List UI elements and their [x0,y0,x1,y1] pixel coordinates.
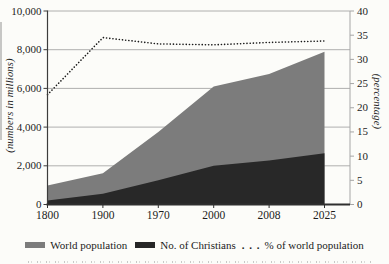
x-axis-tick-label: 2008 [258,209,281,221]
x-axis-tick-label: 1900 [91,209,114,221]
plot-area: 02,0004,0006,0008,00010,0000510152025303… [0,0,389,236]
x-axis-tick-label: 1970 [147,209,170,221]
dotted-line-swatch: . . . [242,239,261,251]
left-axis-title: (numbers in millions) [4,41,15,171]
right-axis-title: (percentage) [372,62,383,142]
x-axis-tick-label: 2000 [202,209,225,221]
left-axis-tick-label: 8,000 [17,43,42,55]
christians-swatch [135,242,155,248]
legend: World population No. of Christians . . .… [0,239,389,251]
right-axis-tick-label: 0 [357,198,363,210]
scan-edge-artifact [0,22,2,140]
right-axis-tick-label: 10 [357,150,369,162]
x-axis-tick-label: 2025 [313,209,336,221]
left-axis-tick-label: 6,000 [17,82,42,94]
x-axis-tick-label: 1800 [36,209,59,221]
chart-figure: 02,0004,0006,0008,00010,0000510152025303… [0,0,389,264]
legend-label-world-population: World population [50,239,127,251]
right-axis-tick-label: 5 [357,174,363,186]
right-axis-tick-label: 20 [357,101,369,113]
legend-label-percentage: % of world population [264,239,363,251]
right-axis-tick-label: 25 [357,77,369,89]
legend-label-christians: No. of Christians [160,239,235,251]
cropped-caption-artifact [28,261,373,263]
world-population-swatch [25,242,45,248]
left-axis-tick-label: 4,000 [17,121,42,133]
right-axis-tick-label: 30 [357,53,369,65]
right-axis-tick-label: 40 [357,5,369,17]
right-axis-tick-label: 15 [357,125,369,137]
right-axis-tick-label: 35 [357,29,369,41]
left-axis-tick-label: 10,000 [11,5,42,17]
left-axis-tick-label: 2,000 [17,159,42,171]
